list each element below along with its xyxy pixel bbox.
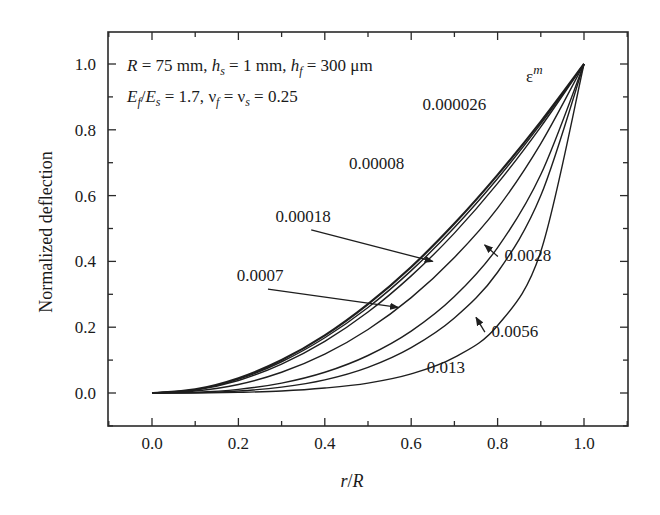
series-line-0.0007 xyxy=(152,64,584,393)
legend-title: εm xyxy=(526,62,543,86)
annotation-line-1: R = 75 mm, hs = 1 mm, hf = 300 μm xyxy=(126,56,373,78)
curve-label-0.000026: 0.000026 xyxy=(423,95,487,114)
x-tick-labels: 0.00.20.40.60.81.0 xyxy=(141,434,594,453)
y-tick-label: 0.4 xyxy=(75,252,97,271)
y-tick-label: 0.0 xyxy=(75,384,96,403)
label-arrows xyxy=(268,230,498,332)
series-line-0.0028 xyxy=(152,64,584,393)
x-tick-label: 0.2 xyxy=(228,434,249,453)
x-tick-label: 0.4 xyxy=(314,434,336,453)
chart: 0.00.20.40.60.81.0 0.00.20.40.60.81.0 0.… xyxy=(0,0,660,515)
series-line-0.00008 xyxy=(152,64,584,393)
curve-labels: 0.0000260.000080.000180.00070.00280.0056… xyxy=(237,95,552,377)
curve-label-0.0028: 0.0028 xyxy=(504,246,551,265)
y-tick-label: 1.0 xyxy=(75,55,96,74)
x-tick-label: 0.0 xyxy=(141,434,162,453)
curve-label-0.0056: 0.0056 xyxy=(492,322,539,341)
series-line-0.00018 xyxy=(152,64,584,393)
annotation-line-2: Ef/Es = 1.7, νf = νs = 0.25 xyxy=(126,87,298,109)
y-tick-label: 0.6 xyxy=(75,187,96,206)
series-line-0.013 xyxy=(152,64,584,393)
arrow-0.00018 xyxy=(311,230,433,261)
x-axis-title: r/R xyxy=(340,471,363,491)
curve-label-0.0007: 0.0007 xyxy=(237,266,284,285)
curves xyxy=(152,64,584,393)
series-line-0.0056 xyxy=(152,64,584,393)
y-axis-title: Normalized deflection xyxy=(36,151,56,312)
x-tick-label: 1.0 xyxy=(573,434,594,453)
y-tick-label: 0.2 xyxy=(75,318,96,337)
x-tick-label: 0.6 xyxy=(401,434,422,453)
y-tick-labels: 0.00.20.40.60.81.0 xyxy=(75,55,97,403)
x-tick-label: 0.8 xyxy=(487,434,508,453)
arrow-0.0056 xyxy=(476,317,485,332)
y-tick-label: 0.8 xyxy=(75,121,96,140)
curve-label-0.00018: 0.00018 xyxy=(276,207,331,226)
curve-label-0.00008: 0.00008 xyxy=(349,154,404,173)
curve-label-0.013: 0.013 xyxy=(427,358,465,377)
series-line-0.000026 xyxy=(152,64,584,393)
